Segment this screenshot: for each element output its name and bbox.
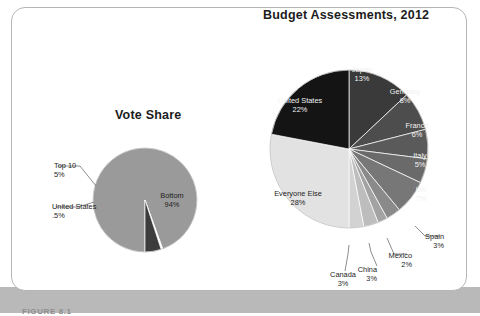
callout-value-label: .5% [52,211,65,220]
slice-name-label: Italy [413,151,427,160]
slice-name-label: United States [278,96,323,105]
callout-name-label: Top 10 [54,161,76,170]
slice-value-label: 5% [415,160,426,169]
leader-line [369,243,377,266]
slice-value-label: 94% [165,200,180,209]
slice-value-label: 6% [412,130,423,139]
callout-name-label: United States [52,202,97,211]
callout-value-label: 5% [54,170,65,179]
slice-value-label: 28% [291,198,306,207]
slice-value-label: 13% [355,74,370,83]
vote-share-group [93,148,197,252]
callout-value-label: 2% [401,260,412,269]
slice-name-label: UK [416,185,426,194]
slice-value-label: 8% [400,96,411,105]
pie-slice-everyone-else [270,134,349,228]
slice-name-label: Germany [390,87,421,96]
callout-name-label: Canada [330,270,357,279]
slice-name-label: Bottom [160,191,183,200]
callout-name-label: China [358,265,378,274]
slice-name-label: Everyone Else [274,189,322,198]
slice-name-label: Japan [352,65,372,74]
callout-value-label: 3% [433,241,444,250]
callout-name-label: Mexico [389,251,412,260]
slice-value-label: 22% [293,105,308,114]
callout-name-label: Spain [425,232,444,241]
callout-value-label: 3% [338,279,349,288]
callout-value-label: 3% [366,274,377,283]
slice-value-label: 7% [416,194,427,203]
leader-line [345,245,349,271]
slice-name-label: France [405,121,428,130]
